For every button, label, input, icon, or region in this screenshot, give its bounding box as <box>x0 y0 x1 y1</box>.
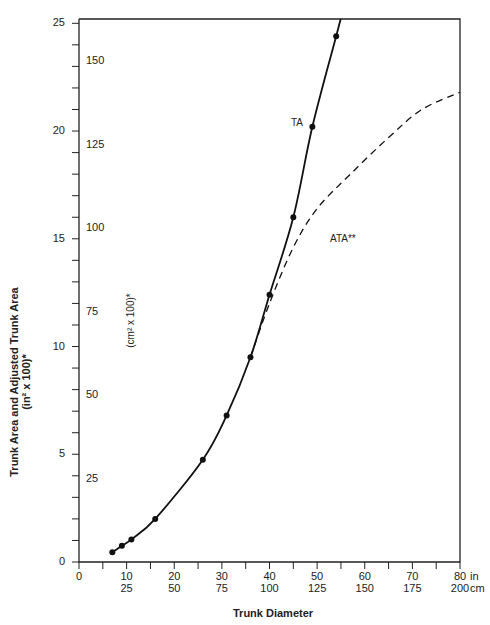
series-label-ta: TA <box>291 117 303 128</box>
y-tick-label: 25 <box>45 16 65 28</box>
x-unit-cm: cm <box>470 582 485 594</box>
x-tick-label: 50125 <box>302 570 332 594</box>
y-tick-label: 10 <box>45 340 65 352</box>
data-point-marker <box>128 536 134 542</box>
y-tick-label: 0 <box>45 555 65 567</box>
data-series <box>109 19 460 555</box>
axis-frame <box>79 19 460 562</box>
x-tick-label: 1025 <box>112 570 142 594</box>
x-tick-label: 40100 <box>255 570 285 594</box>
y-axis-title: Trunk Area and Adjusted Trunk Area (in² … <box>8 257 32 507</box>
y-axis-title-line1: Trunk Area and Adjusted Trunk Area <box>8 257 20 507</box>
data-point-marker <box>333 33 339 39</box>
data-point-marker <box>224 412 230 418</box>
x-tick-label: 3075 <box>207 570 237 594</box>
y-axis-title-units: (in² x 100)* <box>20 257 32 507</box>
data-point-marker <box>200 457 206 463</box>
ta-curve <box>112 19 340 552</box>
x-tick-label: 2050 <box>159 570 189 594</box>
y-tick-label-cm: 125 <box>86 138 104 150</box>
series-label-ata: ATA** <box>330 233 356 244</box>
y-tick-label: 15 <box>45 232 65 244</box>
x-tick-label: 0 <box>64 570 94 594</box>
data-point-marker <box>119 543 125 549</box>
y-tick-label-cm: 25 <box>86 472 98 484</box>
y-tick-label: 5 <box>45 447 65 459</box>
y-tick-label: 20 <box>45 124 65 136</box>
y-tick-label-cm: 150 <box>86 54 104 66</box>
chart-plot-area <box>0 0 490 625</box>
y-tick-label-cm: 50 <box>86 388 98 400</box>
ata-curve <box>250 92 460 357</box>
x-tick-label: 60150 <box>350 570 380 594</box>
data-point-marker <box>109 549 115 555</box>
y-axis-cm-title: (cm² x 100)* <box>125 281 136 361</box>
data-point-marker <box>152 516 158 522</box>
data-point-marker <box>309 124 315 130</box>
data-point-marker <box>290 214 296 220</box>
x-tick-label: 70175 <box>397 570 427 594</box>
x-unit-in: in <box>470 570 479 582</box>
x-axis-title: Trunk Diameter <box>233 607 313 619</box>
y-tick-label-cm: 75 <box>86 305 98 317</box>
y-tick-label-cm: 100 <box>86 221 104 233</box>
